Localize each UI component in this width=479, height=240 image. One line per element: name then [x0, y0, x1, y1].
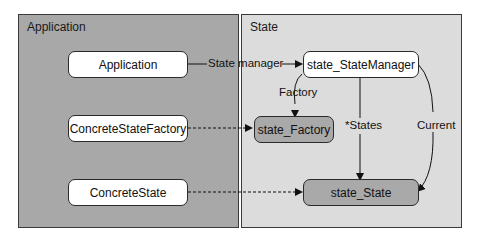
node-state-factory[interactable]: state_Factory — [254, 116, 334, 143]
edge-label-current: Current — [417, 119, 455, 131]
node-state-state[interactable]: state_State — [303, 179, 419, 206]
edge-label-factory: Factory — [279, 86, 317, 98]
node-concrete-state[interactable]: ConcreteState — [68, 179, 188, 206]
node-state-state-label: state_State — [331, 186, 392, 200]
edge-current-top — [418, 64, 433, 112]
node-concrete-state-factory-label: ConcreteStateFactory — [70, 122, 187, 136]
node-state-manager[interactable]: state_StateManager — [303, 51, 419, 78]
node-application-label: Application — [99, 58, 158, 72]
edge-current-bottom — [418, 132, 433, 191]
edge-label-state-manager: State manager — [208, 57, 283, 69]
node-concrete-state-label: ConcreteState — [90, 186, 167, 200]
node-state-manager-label: state_StateManager — [307, 58, 415, 72]
node-concrete-state-factory[interactable]: ConcreteStateFactory — [68, 115, 188, 142]
edge-label-states: *States — [345, 119, 382, 131]
node-application[interactable]: Application — [68, 51, 188, 78]
node-state-factory-label: state_Factory — [258, 123, 331, 137]
